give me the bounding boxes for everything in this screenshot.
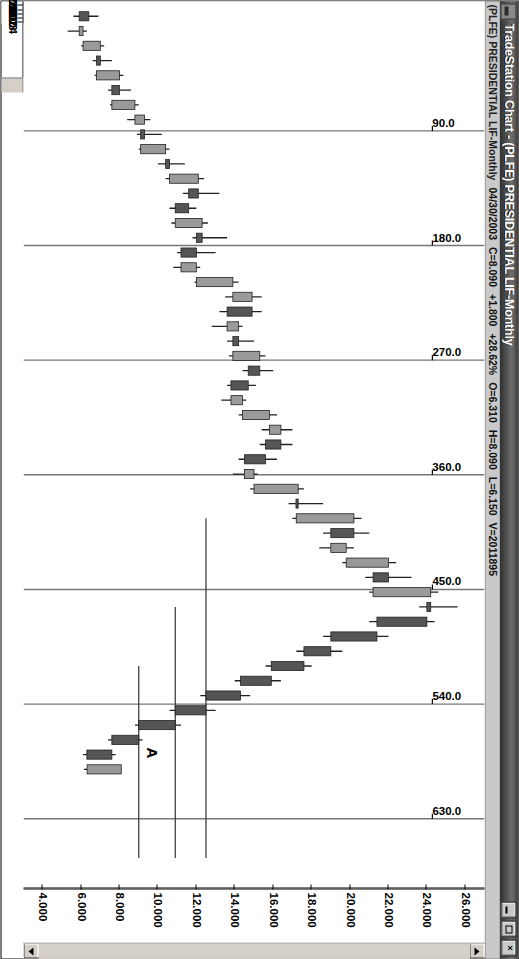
candlestick-svg: 90.0180.0270.0360.0450.0540.0630.0A — [23, 1, 484, 887]
price-tick — [118, 884, 119, 889]
date-tick-label: 2004 — [6, 8, 18, 34]
svg-text:180.0: 180.0 — [432, 231, 461, 243]
status-low: L=6.150 — [486, 476, 498, 515]
price-tick-label: 24.000 — [420, 892, 432, 927]
price-tick-label: 26.000 — [459, 892, 471, 927]
price-tick — [233, 884, 234, 889]
price-tick-label: 4.000 — [36, 892, 48, 921]
price-tick — [41, 884, 42, 889]
price-tick-label: 10.000 — [151, 892, 163, 927]
svg-text:270.0: 270.0 — [432, 346, 461, 358]
price-tick — [195, 884, 196, 889]
price-tick — [310, 884, 311, 889]
svg-text:A: A — [144, 747, 161, 758]
price-axis: 26.00024.00022.00020.00018.00016.00014.0… — [23, 888, 484, 942]
price-tick — [425, 884, 426, 889]
svg-text:450.0: 450.0 — [432, 575, 461, 587]
maximize-button[interactable] — [501, 920, 517, 937]
price-tick — [387, 884, 388, 889]
arrow-down-icon — [28, 947, 33, 955]
status-date: 04/30/2003 — [486, 187, 498, 240]
price-tick — [80, 884, 81, 889]
status-symbol: (PLFE) PRESIDENTIAL LIF-Monthly — [486, 4, 498, 180]
window-title: TradeStation Chart - (PLFE) PRESIDENTIAL… — [502, 23, 516, 901]
date-tick — [17, 21, 22, 22]
price-tick-label: 16.000 — [267, 892, 279, 927]
close-button[interactable]: × — [501, 939, 517, 956]
price-tick-label: 6.000 — [75, 892, 87, 921]
status-open: O=6.310 — [486, 382, 498, 423]
svg-text:90.0: 90.0 — [432, 116, 454, 128]
minimize-button[interactable] — [501, 901, 517, 918]
price-tick-label: 20.000 — [344, 892, 356, 927]
vertical-scrollbar[interactable] — [23, 942, 484, 958]
chart-icon — [501, 3, 517, 19]
price-tick-label: 18.000 — [305, 892, 317, 927]
status-change-pct: +28.62% — [486, 333, 498, 375]
window-titlebar[interactable]: TradeStation Chart - (PLFE) PRESIDENTIAL… — [499, 1, 518, 958]
scrollbar-thumb[interactable] — [38, 943, 469, 958]
date-axis: 20002001200220032004 — [1, 1, 23, 23]
price-tick-label: 12.000 — [190, 892, 202, 927]
chart-window: TradeStation Chart - (PLFE) PRESIDENTIAL… — [0, 0, 519, 959]
chart-plot-area[interactable]: 90.0180.0270.0360.0450.0540.0630.0A — [23, 1, 484, 888]
price-tick-label: 14.000 — [228, 892, 240, 927]
status-volume: V=2011895 — [486, 522, 498, 575]
svg-text:360.0: 360.0 — [432, 460, 461, 472]
status-high: H=8.090 — [486, 429, 498, 469]
status-close: C=8.090 — [486, 247, 498, 287]
price-tick-label: 8.000 — [113, 892, 125, 921]
price-tick — [156, 884, 157, 889]
price-tick — [464, 884, 465, 889]
svg-text:630.0: 630.0 — [432, 804, 461, 816]
price-tick-label: 22.000 — [382, 892, 394, 927]
scroll-down-button[interactable] — [23, 943, 38, 958]
scroll-up-button[interactable] — [469, 943, 484, 958]
price-tick — [272, 884, 273, 889]
price-tick — [349, 884, 350, 889]
quote-status-line: (PLFE) PRESIDENTIAL LIF-Monthly 04/30/20… — [484, 1, 499, 958]
status-change: +1.800 — [486, 294, 498, 326]
window-controls: × — [501, 901, 517, 956]
arrow-up-icon — [474, 947, 479, 955]
scrollbar-corner — [1, 77, 23, 92]
svg-text:540.0: 540.0 — [432, 690, 461, 702]
